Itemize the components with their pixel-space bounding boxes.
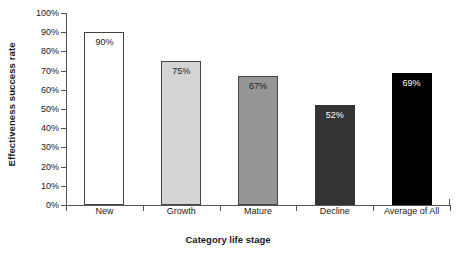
category-label-growth: Growth (167, 206, 196, 216)
bar-mature[interactable]: 67% (238, 76, 278, 205)
y-tick-mark (61, 71, 66, 72)
y-axis-spine (66, 13, 67, 206)
y-tick-label: 40% (41, 123, 59, 133)
category-label-decline: Decline (320, 206, 350, 216)
x-tick-mark (220, 205, 221, 211)
x-tick-mark (450, 205, 451, 211)
y-tick-label: 60% (41, 85, 59, 95)
y-tick-mark (61, 90, 66, 91)
bar-value-label: 69% (403, 79, 421, 204)
y-tick-mark (61, 186, 66, 187)
category-label-average-of-all: Average of All (384, 206, 439, 216)
y-axis-title-text: Effectiveness success rate (6, 42, 17, 166)
bar-average-of-all[interactable]: 69% (392, 73, 432, 205)
bar-value-label: 67% (249, 82, 267, 204)
y-tick-label: 0% (46, 200, 59, 210)
y-tick-label: 50% (41, 104, 59, 114)
y-tick-label: 30% (41, 142, 59, 152)
y-tick-mark (61, 13, 66, 14)
x-tick-mark (66, 205, 67, 211)
y-tick-label: 80% (41, 46, 59, 56)
y-tick-label: 90% (41, 27, 59, 37)
x-axis-title: Category life stage (0, 234, 456, 245)
y-tick-label: 70% (41, 66, 59, 76)
y-axis-title: Effectiveness success rate (2, 0, 20, 208)
y-tick-label: 100% (36, 8, 59, 18)
plot-area: 0%10%20%30%40%50%60%70%80%90%100% 90%75%… (66, 13, 450, 205)
bar-new[interactable]: 90% (84, 32, 124, 205)
y-tick-label: 10% (41, 181, 59, 191)
y-tick-mark (61, 32, 66, 33)
x-tick-mark (373, 205, 374, 211)
bar-value-label: 90% (95, 38, 113, 204)
y-tick-mark (61, 167, 66, 168)
y-tick-mark (61, 147, 66, 148)
bar-value-label: 75% (172, 67, 190, 204)
y-tick-mark (61, 51, 66, 52)
bar-chart-figure: Effectiveness success rate 0%10%20%30%40… (0, 0, 456, 258)
y-tick-mark (61, 128, 66, 129)
x-tick-mark (143, 205, 144, 211)
bar-value-label: 52% (326, 111, 344, 204)
x-tick-mark (296, 205, 297, 211)
bar-decline[interactable]: 52% (315, 105, 355, 205)
category-label-new: New (95, 206, 113, 216)
bar-growth[interactable]: 75% (161, 61, 201, 205)
category-label-mature: Mature (244, 206, 272, 216)
y-tick-mark (61, 109, 66, 110)
y-tick-label: 20% (41, 162, 59, 172)
